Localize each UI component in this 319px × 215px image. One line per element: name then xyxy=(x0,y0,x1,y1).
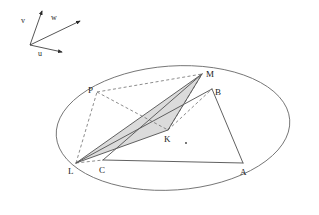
vector-w-label: w xyxy=(51,13,57,22)
vector-u-label: u xyxy=(38,49,42,58)
point-label-L: L xyxy=(68,166,74,176)
point-label-B: B xyxy=(215,87,221,97)
point-label-P: P xyxy=(88,85,93,95)
point-label-C: C xyxy=(99,165,105,175)
vector-v-label: v xyxy=(21,16,25,25)
geometry-figure: u v w L C A B M P K xyxy=(0,0,319,215)
point-label-A: A xyxy=(240,167,247,177)
point-label-M: M xyxy=(206,69,214,79)
point-label-K: K xyxy=(164,134,171,144)
interior-dot xyxy=(185,142,187,144)
